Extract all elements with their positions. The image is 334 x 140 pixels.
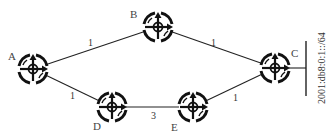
node-label-c: C	[291, 48, 298, 59]
edge-b-c	[158, 27, 275, 68]
edge-cost-b-c: 1	[211, 38, 216, 48]
router-icon-b[interactable]	[144, 12, 173, 41]
edge-cost-d-e: 3	[151, 111, 156, 121]
router-icon-d[interactable]	[98, 92, 127, 121]
router-icon-e[interactable]	[179, 92, 208, 121]
network-prefix-label: 2001:db8:0:1::/64	[317, 32, 327, 104]
edge-cost-a-d: 1	[70, 91, 75, 101]
topology-canvas	[0, 0, 334, 140]
edge-a-b	[33, 27, 158, 69]
edge-cost-a-b: 1	[88, 38, 93, 48]
node-label-a: A	[8, 51, 16, 62]
router-icon-c[interactable]	[261, 53, 290, 82]
node-label-d: D	[93, 121, 101, 132]
node-label-b: B	[130, 9, 137, 20]
edge-cost-e-c: 1	[233, 93, 238, 103]
router-icon-a[interactable]	[19, 54, 48, 83]
node-label-e: E	[171, 122, 178, 133]
